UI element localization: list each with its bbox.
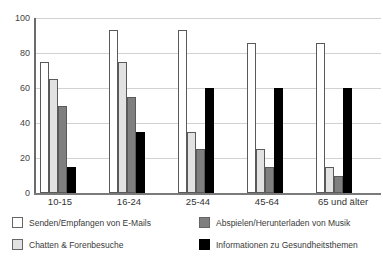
chart-legend: Senden/Empfangen von E-Mails Chatten & F… xyxy=(0,214,383,265)
bar-65-plus-chat xyxy=(325,167,334,193)
bar-65-plus-health xyxy=(343,88,352,193)
x-tick-10-15: 10-15 xyxy=(36,196,84,208)
dark-gray-square-swatch-icon xyxy=(199,217,210,228)
bar-group-65-und-aelter xyxy=(316,18,352,193)
legend-item-health: Informationen zu Gesundheitsthemen xyxy=(199,239,358,250)
x-axis-tick-labels: 10-15 16-24 25-44 45-64 65 und älter xyxy=(36,196,381,212)
bar-25-44-emails xyxy=(178,30,187,193)
bar-10-15-music xyxy=(58,106,67,194)
y-tick-40: 40 xyxy=(4,119,30,128)
bar-65-plus-emails xyxy=(316,43,325,194)
legend-label-emails: Senden/Empfangen von E-Mails xyxy=(29,218,151,228)
y-tick-60: 60 xyxy=(4,84,30,93)
y-axis-tick-labels: 100 80 60 40 20 0 xyxy=(0,0,30,205)
bar-group-45-64 xyxy=(247,18,283,193)
y-tick-0: 0 xyxy=(4,189,30,198)
legend-label-health: Informationen zu Gesundheitsthemen xyxy=(216,240,358,250)
legend-item-music: Abspielen/Herunterladen von Musik xyxy=(199,217,350,228)
bar-10-15-health xyxy=(67,167,76,193)
legend-item-emails: Senden/Empfangen von E-Mails xyxy=(12,217,151,228)
bar-65-plus-music xyxy=(334,176,343,194)
x-tick-65-und-aelter: 65 und älter xyxy=(308,196,378,208)
legend-label-chat: Chatten & Forenbesuche xyxy=(29,240,124,250)
x-tick-16-24: 16-24 xyxy=(105,196,153,208)
legend-label-music: Abspielen/Herunterladen von Musik xyxy=(216,218,350,228)
bar-25-44-health xyxy=(205,88,214,193)
bar-25-44-chat xyxy=(187,132,196,193)
black-square-swatch-icon xyxy=(199,239,210,250)
bar-45-64-music xyxy=(265,167,274,193)
y-tick-20: 20 xyxy=(4,154,30,163)
bar-group-10-15 xyxy=(40,18,76,193)
light-gray-square-swatch-icon xyxy=(12,239,23,250)
bar-16-24-health xyxy=(136,132,145,193)
bar-chart: 100 80 60 40 20 0 xyxy=(0,0,383,265)
bar-group-25-44 xyxy=(178,18,214,193)
bar-16-24-chat xyxy=(118,62,127,193)
bar-16-24-music xyxy=(127,97,136,193)
plot-wrapper: 100 80 60 40 20 0 xyxy=(0,0,383,205)
bar-16-24-emails xyxy=(109,30,118,193)
bar-10-15-chat xyxy=(49,79,58,193)
legend-item-chat: Chatten & Forenbesuche xyxy=(12,239,124,250)
bars-layer xyxy=(36,18,381,193)
x-tick-45-64: 45-64 xyxy=(243,196,291,208)
bar-10-15-emails xyxy=(40,62,49,193)
bar-25-44-music xyxy=(196,149,205,193)
bar-45-64-emails xyxy=(247,43,256,194)
bar-group-16-24 xyxy=(109,18,145,193)
x-axis-line xyxy=(34,193,381,195)
bar-45-64-chat xyxy=(256,149,265,193)
x-tick-25-44: 25-44 xyxy=(174,196,222,208)
y-tick-100: 100 xyxy=(4,14,30,23)
y-tick-80: 80 xyxy=(4,49,30,58)
white-square-swatch-icon xyxy=(12,217,23,228)
bar-45-64-health xyxy=(274,88,283,193)
